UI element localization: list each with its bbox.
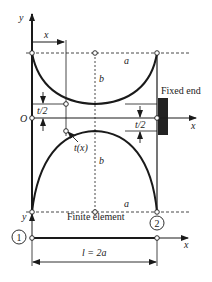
bottom-b-label: b (99, 155, 104, 166)
t-half-right-label: t/2 (135, 119, 146, 130)
fe-node-2-label: 2 (155, 218, 160, 229)
fixed-end-label: Fixed end (161, 85, 201, 96)
top-figure: y x a a b b Fixed end x O (18, 12, 201, 216)
fixed-end-block (158, 98, 168, 135)
thickness-label: t(x) (74, 142, 89, 154)
fe-node-1 (30, 236, 35, 241)
top-curve (32, 53, 157, 104)
top-a-label: a (124, 55, 129, 66)
y-axis-label: y (18, 12, 24, 23)
bottom-curve (32, 131, 157, 212)
fe-node-2 (155, 236, 160, 241)
fe-title: Finite element (67, 211, 125, 222)
x-dimension-label: x (43, 29, 49, 40)
x-axis-label: x (190, 120, 196, 131)
top-b-label: b (99, 73, 104, 84)
bottom-a-label: a (124, 198, 129, 209)
beam-diagram: y x a a b b Fixed end x O (0, 0, 212, 282)
fe-y-axis-label: y (21, 211, 27, 222)
origin-label: O (20, 113, 27, 124)
finite-element-figure: y Finite element x 1 2 l = 2a (12, 211, 189, 266)
fe-length-label: l = 2a (82, 247, 107, 258)
fe-x-axis-label: x (183, 239, 189, 250)
t-half-left-label: t/2 (37, 105, 48, 116)
fe-node-1-label: 1 (17, 232, 22, 243)
